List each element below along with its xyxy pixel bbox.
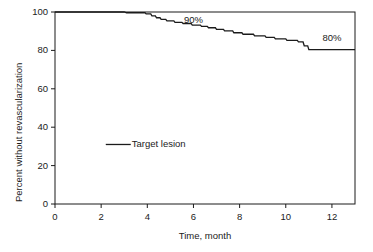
legend-label: Target lesion [132, 139, 186, 149]
x-tick-label: 10 [266, 212, 306, 222]
y-tick-label: 80 [37, 45, 48, 55]
x-tick-label: 2 [81, 212, 121, 222]
x-axis-label: Time, month [35, 231, 373, 241]
x-tick-label: 6 [173, 212, 213, 222]
x-tick-label: 0 [35, 212, 75, 222]
x-tick-label: 12 [312, 212, 352, 222]
y-tick-label: 40 [37, 122, 48, 132]
y-tick-label: 60 [37, 84, 48, 94]
y-axis-label: Percent without revascularization [14, 63, 24, 202]
chart-figure: Percent without revascularization Time, … [0, 0, 373, 252]
annotation-80-percent: 80% [307, 33, 357, 43]
annotation-90-percent: 90% [168, 15, 218, 25]
y-tick-label: 20 [37, 161, 48, 171]
y-tick-label: 100 [32, 7, 48, 17]
axis-ticks [51, 12, 332, 208]
x-tick-label: 4 [127, 212, 167, 222]
y-tick-label: 0 [43, 199, 48, 209]
x-tick-label: 8 [220, 212, 260, 222]
